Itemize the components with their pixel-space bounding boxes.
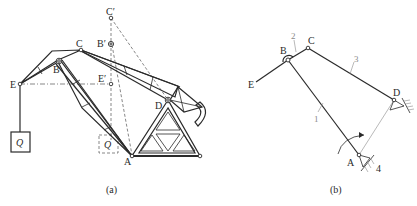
- pin-base-right: [198, 154, 202, 158]
- pin-c: [306, 46, 310, 50]
- arm-rib: [82, 103, 90, 107]
- figure-b: B C E D A 2 3 1 4 (b): [248, 31, 414, 196]
- hatch: [368, 163, 371, 168]
- label-c: C: [308, 35, 315, 46]
- mechanism-figure: Q: [0, 0, 417, 206]
- horse-head-truss: [170, 87, 202, 112]
- label-b: B: [280, 45, 287, 56]
- crank-arm-edge: [56, 64, 132, 156]
- link-number-1: 1: [314, 114, 319, 124]
- link-number-3: 3: [354, 54, 359, 64]
- hatch: [407, 106, 413, 107]
- link-number-2: 2: [291, 31, 296, 41]
- link-e-b: [256, 60, 288, 82]
- hatch: [365, 167, 368, 172]
- label-a: A: [347, 157, 355, 168]
- ground-support-a: [359, 155, 374, 172]
- pin-b-inner: [58, 60, 61, 63]
- pin-e-prime: [109, 82, 113, 86]
- pin-d: [392, 98, 396, 102]
- label-b-prime: B′: [97, 38, 106, 49]
- label-e-prime: E′: [98, 73, 106, 84]
- label-c-prime: C′: [106, 6, 115, 17]
- load-ghost: Q: [99, 135, 118, 153]
- link-2-bc: [288, 48, 308, 60]
- beam-body: [81, 50, 178, 97]
- link-3-cd: [308, 48, 394, 100]
- walking-beam: [81, 50, 206, 126]
- hatch: [408, 109, 414, 110]
- pins-a: [18, 16, 202, 158]
- pin-b: [286, 58, 290, 62]
- pin-e: [18, 82, 22, 86]
- c-prime-to-d-dashed: [111, 18, 168, 100]
- hatch: [404, 100, 410, 101]
- label-b: B: [53, 64, 60, 75]
- label-e: E: [248, 79, 254, 90]
- caption-b: (b): [330, 184, 342, 196]
- support-a-triangle: [359, 155, 370, 167]
- support-tower: [132, 100, 200, 156]
- label-d: D: [155, 100, 162, 111]
- crank-frame: [20, 50, 132, 156]
- load: Q: [11, 84, 30, 152]
- caption-a: (a): [106, 184, 117, 196]
- load-ghost-label: Q: [104, 139, 112, 150]
- pin-d-inner: [167, 99, 170, 102]
- label-d: D: [393, 87, 400, 98]
- pin-b-prime-inner: [110, 43, 112, 45]
- load-label: Q: [16, 137, 24, 148]
- frame-number-4: 4: [376, 163, 381, 174]
- frame-link-ad: [359, 100, 394, 155]
- tower-inner: [139, 108, 195, 153]
- label-a: A: [124, 156, 132, 167]
- rotation-arrowhead-icon: [359, 132, 364, 138]
- beam-bottom-edge: [81, 51, 168, 100]
- tower-cell: [156, 134, 180, 151]
- hatch: [405, 103, 411, 104]
- beam-rib: [150, 77, 153, 90]
- beam-top-edge: [81, 50, 180, 87]
- support-d-triangle: [390, 100, 404, 110]
- label-c: C: [76, 38, 83, 49]
- pin-a: [357, 153, 361, 157]
- b-prime-to-a-dashed: [112, 45, 132, 155]
- hatch: [371, 159, 374, 164]
- label-e: E: [10, 79, 16, 90]
- figure-a: Q: [10, 6, 206, 196]
- leader-2: [294, 40, 296, 52]
- link-1-ba: [288, 60, 359, 155]
